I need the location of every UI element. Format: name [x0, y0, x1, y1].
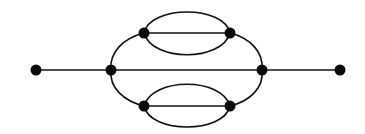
node-left-inner	[106, 65, 117, 76]
edge-outer-arc-top-right	[230, 33, 262, 70]
edge-bottom-bubble-upper-arc	[144, 84, 230, 106]
node-right-inner	[257, 65, 268, 76]
edge-top-bubble-lower-arc	[144, 33, 230, 55]
edge-outer-arc-top-left	[111, 33, 144, 70]
edge-top-bubble-upper-arc	[144, 12, 230, 33]
edge-bottom-bubble-lower-arc	[144, 106, 230, 127]
node-top-left	[139, 28, 150, 39]
node-bottom-left	[139, 101, 150, 112]
graph-diagram	[0, 0, 365, 134]
node-top-right	[225, 28, 236, 39]
edge-outer-arc-bottom-right	[230, 70, 262, 106]
edge-outer-arc-bottom-left	[111, 70, 144, 106]
node-bottom-right	[225, 101, 236, 112]
node-right-end	[335, 65, 346, 76]
diagram-canvas	[0, 0, 365, 134]
node-left-end	[31, 65, 42, 76]
